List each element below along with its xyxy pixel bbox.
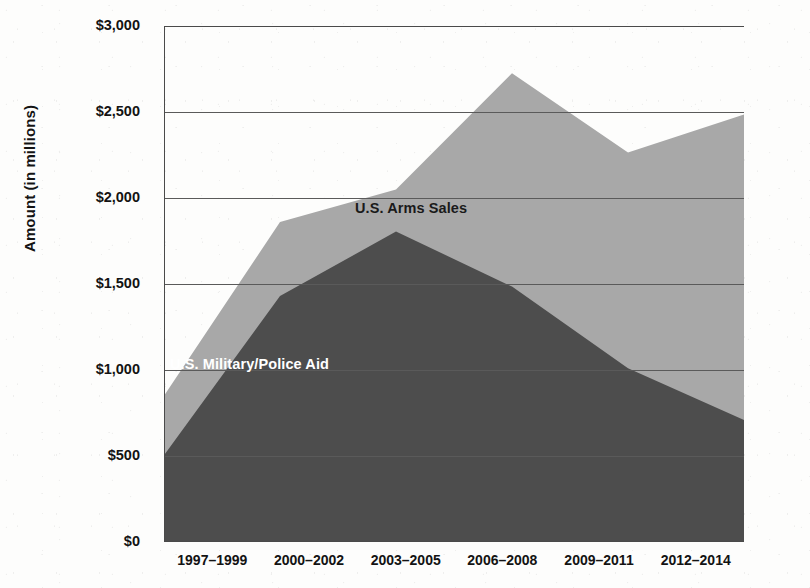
y-tick-3000: $3,000 [0,17,152,33]
y-tick-0: $0 [0,533,152,549]
x-tick-2000-2002: 2000–2002 [261,552,358,582]
series-label-military-police-aid: U.S. Military/Police Aid [170,356,329,372]
plot-area [164,26,744,542]
y-tick-2000: $2,000 [0,189,152,205]
y-axis-tick-labels: $3,000 $2,500 $2,000 $1,500 $1,000 $500 … [0,0,152,588]
x-tick-2012-2014: 2012–2014 [647,552,744,582]
x-tick-2006-2008: 2006–2008 [454,552,551,582]
x-axis-tick-labels: 1997–1999 2000–2002 2003–2005 2006–2008 … [164,552,744,582]
x-tick-2009-2011: 2009–2011 [551,552,648,582]
series-label-arms-sales: U.S. Arms Sales [355,200,467,216]
x-tick-2003-2005: 2003–2005 [357,552,454,582]
x-tick-1997-1999: 1997–1999 [164,552,261,582]
chart-canvas: Amount (in millions) $3,000 $2,500 $2,00… [0,0,810,588]
y-tick-2500: $2,500 [0,103,152,119]
plot-frame [164,26,744,542]
y-tick-1000: $1,000 [0,361,152,377]
y-tick-1500: $1,500 [0,275,152,291]
y-tick-500: $500 [0,447,152,463]
